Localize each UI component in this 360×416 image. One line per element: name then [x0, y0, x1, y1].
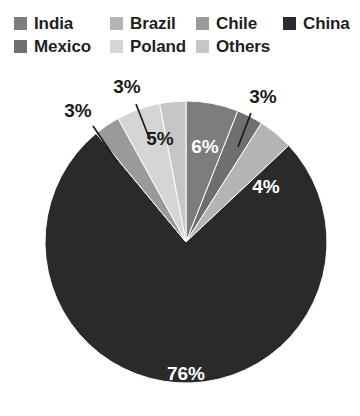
legend-item-poland[interactable]: Poland — [110, 38, 186, 55]
legend-item-india[interactable]: India — [14, 15, 73, 32]
slice-value-label-mexico: 3% — [249, 86, 277, 107]
legend-label-chile: Chile — [216, 15, 257, 32]
slice-value-label-brazil: 4% — [252, 176, 280, 197]
legend-label-india: India — [34, 15, 73, 32]
legend-swatch-china — [283, 17, 296, 30]
legend-swatch-mexico — [14, 40, 27, 53]
legend-item-china[interactable]: China — [283, 15, 350, 32]
legend-item-others[interactable]: Others — [196, 38, 270, 55]
slice-value-label-india: 6% — [191, 136, 219, 157]
slice-value-label-others: 3% — [113, 76, 141, 97]
legend-swatch-others — [196, 40, 209, 53]
legend-swatch-india — [14, 17, 27, 30]
slice-value-label-poland: 5% — [146, 128, 174, 149]
slice-value-label-china: 76% — [167, 363, 205, 384]
legend-item-mexico[interactable]: Mexico — [14, 38, 91, 55]
legend-label-china: China — [303, 15, 350, 32]
slice-value-label-chile: 3% — [64, 100, 92, 121]
legend-label-others: Others — [216, 38, 270, 55]
pie-slices-group — [45, 101, 327, 383]
legend-label-poland: Poland — [130, 38, 186, 55]
legend-swatch-poland — [110, 40, 123, 53]
pie-chart-svg: 6%3%4%76%3%5%3% — [0, 58, 360, 416]
chart-legend: IndiaMexicoBrazilPolandChileOthersChina — [0, 0, 360, 60]
legend-swatch-brazil — [110, 17, 123, 30]
pie-chart-area: 6%3%4%76%3%5%3% — [0, 58, 360, 416]
legend-item-brazil[interactable]: Brazil — [110, 15, 176, 32]
legend-item-chile[interactable]: Chile — [196, 15, 257, 32]
legend-label-brazil: Brazil — [130, 15, 176, 32]
legend-label-mexico: Mexico — [34, 38, 91, 55]
legend-swatch-chile — [196, 17, 209, 30]
pie-chart-page: IndiaMexicoBrazilPolandChileOthersChina … — [0, 0, 360, 416]
